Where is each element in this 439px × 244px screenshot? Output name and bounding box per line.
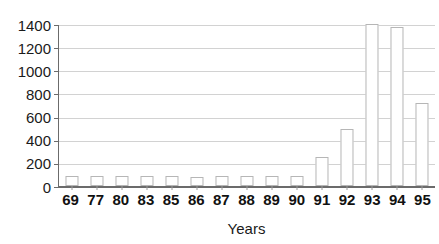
- bar[interactable]: [266, 176, 279, 186]
- bar[interactable]: [341, 129, 354, 186]
- y-axis-tick-label: 0: [0, 180, 51, 195]
- bar[interactable]: [215, 176, 228, 186]
- y-axis-tick-mark: [54, 187, 59, 188]
- x-axis-tick-mark: [246, 186, 247, 190]
- x-axis-tick-mark: [146, 186, 147, 190]
- x-axis-tick-mark: [372, 186, 373, 190]
- bar-slot: [310, 25, 335, 186]
- bar-slot: [134, 25, 159, 186]
- bar-slot: [84, 25, 109, 186]
- bar[interactable]: [165, 176, 178, 186]
- x-axis-tick-mark: [171, 186, 172, 190]
- bar-slot: [335, 25, 360, 186]
- x-axis-tick-mark: [397, 186, 398, 190]
- bar-slot: [159, 25, 184, 186]
- x-axis-tick-label: 86: [188, 192, 205, 207]
- bar-slot: [184, 25, 209, 186]
- x-axis-tick-label: 95: [414, 192, 431, 207]
- x-axis-tick-mark: [221, 186, 222, 190]
- y-axis-tick-label: 1200: [0, 41, 51, 56]
- x-axis-tick-label: 88: [238, 192, 255, 207]
- y-axis-tick-label: 1400: [0, 18, 51, 33]
- x-axis-tick-mark: [422, 186, 423, 190]
- bar[interactable]: [316, 157, 329, 186]
- bar-slot: [285, 25, 310, 186]
- x-axis-tick-label: 69: [62, 192, 79, 207]
- x-axis-tick-label: 80: [112, 192, 129, 207]
- bar-slot: [109, 25, 134, 186]
- x-axis-tick-label: 89: [263, 192, 280, 207]
- x-axis-tick-mark: [196, 186, 197, 190]
- bar-slot: [209, 25, 234, 186]
- x-axis-title: Years: [58, 221, 435, 236]
- bars: [59, 25, 435, 186]
- bar-slot: [59, 25, 84, 186]
- bar-slot: [410, 25, 435, 186]
- x-axis-tick-label: 83: [138, 192, 155, 207]
- x-axis-tick-labels: 697780838586878889909192939495: [58, 192, 435, 214]
- y-axis-tick-label: 600: [0, 110, 51, 125]
- x-axis-tick-label: 92: [339, 192, 356, 207]
- x-axis-tick-mark: [272, 186, 273, 190]
- bar-chart: 0200400600800100012001400 69778083858687…: [0, 0, 439, 244]
- bar[interactable]: [391, 27, 404, 186]
- x-axis-tick-label: 85: [163, 192, 180, 207]
- y-axis-tick-label: 800: [0, 87, 51, 102]
- bar[interactable]: [90, 176, 103, 186]
- bar[interactable]: [115, 176, 128, 186]
- bar[interactable]: [240, 176, 253, 186]
- x-axis-tick-mark: [121, 186, 122, 190]
- bar[interactable]: [291, 176, 304, 186]
- y-axis-tick-label: 400: [0, 133, 51, 148]
- x-axis-tick-label: 91: [314, 192, 331, 207]
- x-axis-tick-mark: [322, 186, 323, 190]
- y-axis-tick-label: 200: [0, 156, 51, 171]
- x-axis-tick-label: 93: [364, 192, 381, 207]
- y-axis-tick-labels: 0200400600800100012001400: [0, 0, 51, 244]
- bar[interactable]: [416, 103, 429, 186]
- bar[interactable]: [190, 177, 203, 186]
- x-axis-tick-label: 90: [288, 192, 305, 207]
- y-axis-tick-label: 1000: [0, 64, 51, 79]
- x-axis-tick-mark: [71, 186, 72, 190]
- bar[interactable]: [65, 176, 78, 186]
- x-axis-tick-mark: [347, 186, 348, 190]
- x-axis-tick-label: 94: [389, 192, 406, 207]
- bar[interactable]: [140, 176, 153, 186]
- bar-slot: [360, 25, 385, 186]
- plot-area: [58, 25, 435, 187]
- bar-slot: [385, 25, 410, 186]
- bar[interactable]: [366, 24, 379, 186]
- bar-slot: [234, 25, 259, 186]
- x-axis-tick-label: 77: [87, 192, 104, 207]
- x-axis-tick-mark: [96, 186, 97, 190]
- bar-slot: [260, 25, 285, 186]
- x-axis-tick-mark: [297, 186, 298, 190]
- x-axis-tick-label: 87: [213, 192, 230, 207]
